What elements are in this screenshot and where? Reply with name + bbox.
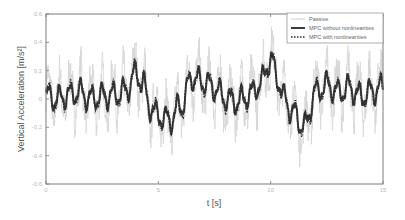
x-tick-label: 5 — [157, 187, 161, 193]
y-tick-label: 0.2 — [34, 68, 43, 74]
x-axis-label: t [s] — [207, 198, 222, 208]
x-tick-label: 15 — [380, 187, 387, 193]
legend: Passive MPC without nonlinearities MPC w… — [287, 13, 383, 43]
y-tick-label: -0.6 — [32, 181, 43, 187]
legend-label-mpc-with: MPC with nonlinearities — [309, 34, 367, 40]
y-tick-label: 0.6 — [34, 11, 43, 17]
y-tick-label: 0.4 — [34, 39, 43, 45]
x-tick-label: 10 — [267, 187, 274, 193]
legend-label-mpc-without: MPC without nonlinearities — [309, 25, 374, 31]
x-tick-label: 0 — [44, 187, 48, 193]
chart: 0.60.40.20-0.2-0.4-0.6 051015 t [s] Vert… — [0, 0, 405, 220]
legend-label-passive: Passive — [309, 16, 328, 22]
series-layer — [46, 27, 383, 167]
y-tick-label: 0 — [39, 96, 43, 102]
y-tick-label: -0.4 — [32, 153, 43, 159]
y-axis-label: Vertical Acceleration [m/s²] — [16, 46, 26, 152]
y-tick-label: -0.2 — [32, 124, 43, 130]
